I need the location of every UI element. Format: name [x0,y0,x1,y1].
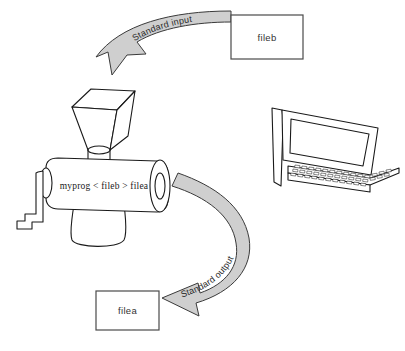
grinder-nozzle-inner [155,173,165,199]
grinder-hopper [72,89,135,150]
grinder: myprog < fileb > filea [17,89,170,246]
grinder-command-label: myprog < fileb > filea [60,181,149,191]
grinder-body: myprog < fileb > filea [40,158,170,212]
output-file-box[interactable]: filea [96,291,159,330]
hopper-neck-top-ellipse [88,146,110,154]
computer [272,108,399,192]
grinder-crank-handle[interactable] [17,171,43,229]
input-file-box-label: fileb [258,32,277,43]
input-file-box[interactable]: fileb [231,15,303,59]
output-file-box-label: filea [118,305,137,316]
crank-arm [17,171,43,229]
standard-output-arrow: Standard output [162,173,250,316]
figure-root: Standard input fileb Standard output fil… [0,0,405,351]
hopper-front-face [72,107,117,150]
standard-input-arrow: Standard input [96,11,231,75]
